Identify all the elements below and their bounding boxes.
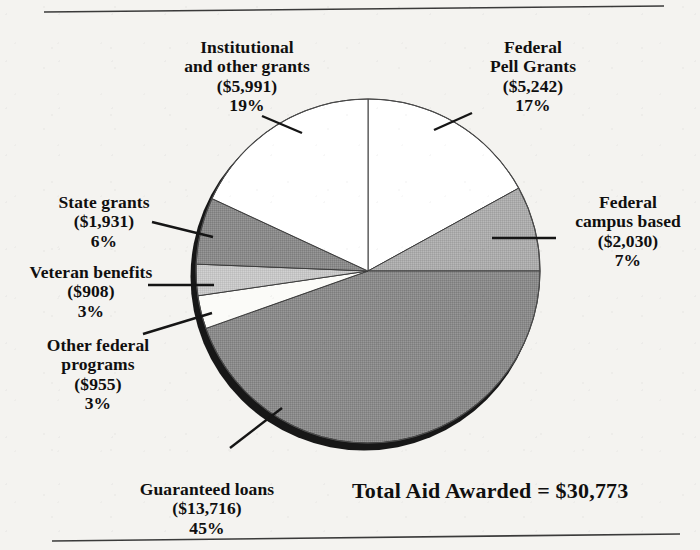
callout-veteran-benefits: Veteran benefits ($908) 3% bbox=[8, 263, 174, 321]
callout-federal-campus-based: Federal campus based ($2,030) 7% bbox=[556, 193, 700, 270]
pie-slices bbox=[196, 99, 540, 443]
callout-federal-pell-grants: Federal Pell Grants ($5,242) 17% bbox=[448, 38, 618, 115]
callout-other-federal-programs: Other federal programs ($955) 3% bbox=[22, 336, 174, 413]
leader-guaranteed bbox=[230, 408, 282, 448]
callout-guaranteed-loans: Guaranteed loans ($13,716) 45% bbox=[112, 480, 302, 538]
callout-institutional-and-other-grants: Institutional and other grants ($5,991) … bbox=[152, 38, 342, 115]
pie-chart-figure: Institutional and other grants ($5,991) … bbox=[0, 0, 700, 550]
top-rule bbox=[44, 6, 664, 12]
total-aid-awarded-label: Total Aid Awarded = $30,773 bbox=[352, 478, 628, 504]
callout-state-grants: State grants ($1,931) 6% bbox=[28, 193, 180, 251]
